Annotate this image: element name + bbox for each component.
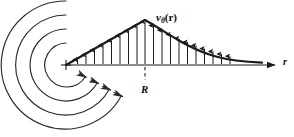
streamline-arrowhead-4 <box>114 93 123 97</box>
streamline-arrowhead-2 <box>91 80 99 83</box>
streamline-arrowhead-3 <box>103 86 111 90</box>
velocity-argument: (r) <box>165 11 177 23</box>
vortex-velocity-figure: vθ(r) R r <box>0 0 294 137</box>
streamline-arrowhead-1 <box>80 74 86 77</box>
velocity-function-label: vθ(r) <box>156 12 177 25</box>
velocity-profile-curve <box>66 20 262 65</box>
velocity-vector-arrows <box>78 22 231 64</box>
r-axis-label: r <box>283 57 287 67</box>
radius-R-label: R <box>141 84 148 95</box>
figure-canvas <box>0 0 294 137</box>
